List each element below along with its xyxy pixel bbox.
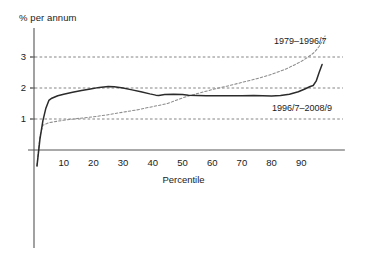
- series-line-1996-7-2008-9: [37, 64, 322, 166]
- ytick-label-1: 1: [12, 113, 26, 124]
- chart-figure: % per annum Percentile 123 1020304050607…: [0, 0, 367, 262]
- series-label-1996-7-2008-9: 1996/7–2008/9: [272, 103, 332, 113]
- xtick-label-30: 30: [112, 157, 134, 168]
- axes-group: [28, 28, 345, 248]
- xtick-label-40: 40: [142, 157, 164, 168]
- xtick-label-60: 60: [201, 157, 223, 168]
- ytick-label-2: 2: [12, 82, 26, 93]
- y-axis-title: % per annum: [19, 12, 77, 23]
- x-axis-title: Percentile: [0, 174, 367, 185]
- xtick-label-80: 80: [261, 157, 283, 168]
- xtick-label-10: 10: [53, 157, 75, 168]
- series-line-1979-1996-7: [37, 36, 325, 166]
- xtick-label-90: 90: [290, 157, 312, 168]
- xtick-label-20: 20: [82, 157, 104, 168]
- data-series-group: [37, 36, 325, 166]
- xtick-label-50: 50: [172, 157, 194, 168]
- series-label-1979-1996-7: 1979–1996/7: [274, 36, 327, 46]
- xtick-label-70: 70: [231, 157, 253, 168]
- ytick-label-3: 3: [12, 51, 26, 62]
